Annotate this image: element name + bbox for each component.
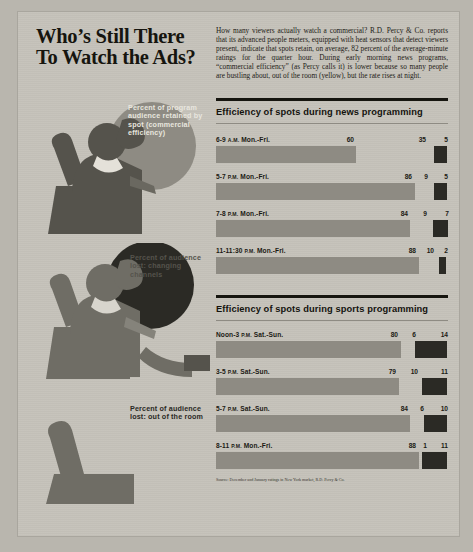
sports-value-changing-channels: 11 <box>432 368 448 375</box>
news-value-changing-channels: 5 <box>434 136 448 143</box>
news-header-underline <box>216 123 448 124</box>
sports-bar-retained <box>216 378 399 395</box>
intro-paragraph: How many viewers actually watch a commer… <box>216 26 448 81</box>
headline-line-1: Who’s Still There <box>36 25 184 47</box>
sports-bar-changing-channels <box>422 378 447 395</box>
sports-bar-changing-channels <box>422 452 447 469</box>
sports-value-retained: 84 <box>390 405 408 412</box>
news-row-label: 7-8 P.M. Mon.-Fri. <box>216 210 269 217</box>
sports-value-retained: 79 <box>378 368 396 375</box>
paper-background: Who’s Still There To Watch the Ads? Perc… <box>18 12 459 536</box>
legend-callout-changing-channels: Percent of audience lost: changing chann… <box>130 254 208 279</box>
news-value-retained: 60 <box>336 136 354 143</box>
source-note: Source: December and January ratings in … <box>216 477 345 482</box>
news-bar-changing-channels <box>433 220 448 237</box>
sports-value-changing-channels: 11 <box>432 442 448 449</box>
news-value-retained: 84 <box>390 210 408 217</box>
sports-value-out-of-room: 6 <box>404 331 416 338</box>
news-row-label: 5-7 P.M. Mon.-Fri. <box>216 173 269 180</box>
sports-row-label: 8-11 P.M. Mon.-Fri. <box>216 442 272 449</box>
sports-bar-changing-channels <box>424 415 447 432</box>
sports-bar-retained <box>216 415 410 432</box>
news-row-label: 11-11:30 P.M. Mon.-Fri. <box>216 247 286 254</box>
infographic-page: Who’s Still There To Watch the Ads? Perc… <box>0 0 473 552</box>
news-bar-retained <box>216 146 356 163</box>
sports-bar-retained <box>216 341 401 358</box>
sports-row-label: 3-5 P.M. Sat.-Sun. <box>216 368 270 375</box>
news-bar-changing-channels <box>439 257 446 274</box>
news-row-label: 6-9 A.M. Mon.-Fri. <box>216 136 270 143</box>
news-value-changing-channels: 7 <box>435 210 449 217</box>
news-chart-title: Efficiency of spots during news programm… <box>216 107 423 117</box>
sports-value-out-of-room: 10 <box>404 368 418 375</box>
news-bar-changing-channels <box>434 183 447 200</box>
section-rule-news <box>216 98 448 101</box>
news-value-out-of-room: 35 <box>410 136 426 143</box>
sports-value-retained: 80 <box>380 331 398 338</box>
sports-row-label: Noon-3 P.M. Sat.-Sun. <box>216 331 283 338</box>
page-title: Who’s Still There To Watch the Ads? <box>36 26 212 68</box>
news-bar-retained <box>216 183 415 200</box>
news-bar-changing-channels <box>434 146 447 163</box>
sports-bar-changing-channels <box>415 341 447 358</box>
news-value-out-of-room: 10 <box>420 247 434 254</box>
news-value-retained: 88 <box>398 247 416 254</box>
sports-value-out-of-room: 1 <box>417 442 427 449</box>
sports-value-retained: 88 <box>398 442 416 449</box>
sports-row-label: 5-7 P.M. Sat.-Sun. <box>216 405 270 412</box>
news-value-out-of-room: 9 <box>414 173 428 180</box>
news-bar-retained <box>216 257 419 274</box>
news-value-changing-channels: 2 <box>436 247 448 254</box>
headline-line-2: To Watch the Ads? <box>36 47 212 68</box>
legend-callout-out-of-room: Percent of audience lost: out of the roo… <box>130 405 208 422</box>
sports-value-changing-channels: 14 <box>432 331 448 338</box>
right-data-column: How many viewers actually watch a commer… <box>214 18 452 530</box>
sports-value-out-of-room: 6 <box>412 405 424 412</box>
sports-value-changing-channels: 10 <box>432 405 448 412</box>
left-illustration-column: Who’s Still There To Watch the Ads? Perc… <box>26 18 208 530</box>
sports-chart-title: Efficiency of spots during sports progra… <box>216 304 428 314</box>
news-value-retained: 86 <box>394 173 412 180</box>
news-bar-retained <box>216 220 410 237</box>
news-value-out-of-room: 9 <box>413 210 427 217</box>
section-rule-sports <box>216 295 448 298</box>
news-value-changing-channels: 5 <box>434 173 448 180</box>
sports-header-underline <box>216 320 448 321</box>
legend-callout-retained: Percent of program audience retained by … <box>128 104 208 138</box>
sports-bar-retained <box>216 452 419 469</box>
